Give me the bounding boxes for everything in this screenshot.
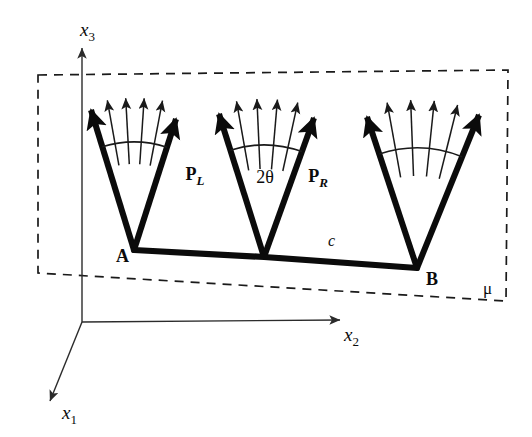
figure-canvas: μ x3 x2 x1 2θPLPR (0, 0, 532, 437)
axis-x1-line (50, 322, 82, 401)
axis-x2-subscript: 2 (352, 334, 359, 349)
branch-fan-middle-ray-3 (271, 100, 277, 170)
branch-fan-middle-right-arrow (264, 118, 314, 257)
crack-endpoint-label-a: A (116, 246, 129, 266)
branch-fan-left (91, 98, 176, 250)
axis-x2: x2 (82, 320, 359, 349)
crack-baseline (134, 250, 417, 268)
branch-fan-middle-angle-label: 2θ (256, 167, 274, 187)
axis-x2-label: x2 (343, 324, 359, 349)
branch-fan-right-ray-2 (411, 100, 414, 176)
branch-fan-left-angle-arc (102, 142, 167, 147)
branch-fan-right-ray-1 (387, 103, 401, 178)
axis-x1-label: x1 (61, 402, 77, 427)
branch-fan-right-left-arrow (367, 117, 417, 268)
axis-x1: x1 (50, 322, 82, 427)
branch-fan-middle-left-vector-label: PL (186, 164, 205, 188)
branch-fan-left-ray-2 (126, 98, 130, 164)
plane-label: μ (483, 279, 492, 298)
branch-fan-middle-angle-arc (230, 145, 302, 152)
axis-x1-subscript: 1 (70, 412, 77, 427)
branches-group: 2θPLPR (91, 98, 479, 268)
branch-fan-right (367, 100, 479, 268)
branch-fan-left-ray-4 (150, 101, 162, 166)
branch-fan-middle-ray-1 (237, 101, 249, 170)
axes-group: x3 x2 x1 (50, 19, 359, 427)
axis-x2-line (82, 320, 340, 322)
branch-fan-middle-right-vector-label: PR (308, 166, 328, 190)
branch-fan-middle-ray-2 (257, 99, 260, 169)
branch-fan-right-angle-arc (379, 148, 462, 157)
branch-fan-left-ray-3 (140, 98, 144, 164)
branch-fan-right-right-arrow (417, 115, 479, 268)
branch-fan-left-ray-1 (107, 100, 119, 165)
crack-endpoint-label-b: B (426, 269, 438, 289)
axis-x3-label: x3 (79, 19, 95, 44)
branch-fan-right-ray-3 (426, 101, 434, 177)
crack-geometry-diagram: μ x3 x2 x1 2θPLPR (0, 0, 532, 437)
axis-x3-subscript: 3 (88, 29, 95, 44)
crack-length-label: c (328, 232, 335, 249)
branch-fan-middle: 2θPLPR (186, 99, 329, 257)
